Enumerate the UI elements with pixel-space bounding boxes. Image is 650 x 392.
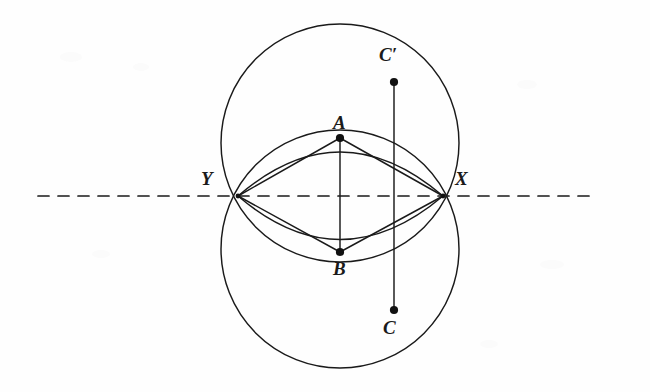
label-B: B (333, 259, 346, 278)
geometry-drawing (0, 0, 650, 392)
segment-AX (340, 138, 443, 196)
label-Y: Y (201, 169, 213, 188)
point-B-dot (336, 248, 344, 256)
point-Y-dot (236, 194, 241, 199)
point-C-dot (390, 306, 398, 314)
point-X-dot (441, 194, 446, 199)
label-C-prime: C′ (379, 45, 397, 64)
point-Cprime-dot (390, 78, 398, 86)
label-X: X (455, 169, 468, 188)
figure-canvas: A B Y X C′ C (0, 0, 650, 392)
label-A: A (333, 113, 346, 132)
label-C: C (383, 318, 396, 337)
point-A-dot (336, 134, 344, 142)
